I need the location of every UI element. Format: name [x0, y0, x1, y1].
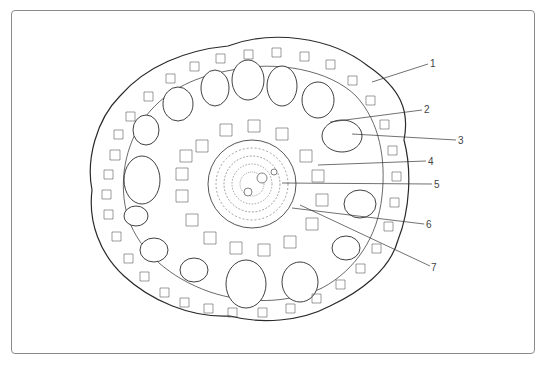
vascular-cylinder	[208, 140, 296, 228]
label-2: 2	[424, 105, 430, 115]
label-4: 4	[428, 157, 434, 167]
label-3: 3	[458, 136, 464, 146]
large-cells	[124, 60, 376, 308]
stem-cross-section	[0, 0, 547, 368]
label-7: 7	[431, 263, 437, 273]
label-6: 6	[426, 220, 432, 230]
label-5: 5	[434, 180, 440, 190]
label-1: 1	[430, 59, 436, 69]
